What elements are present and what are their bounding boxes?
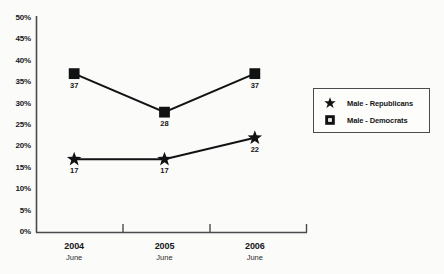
- y-axis-tick-label: 40%: [0, 56, 31, 65]
- y-axis-tick-label: 50%: [0, 13, 31, 22]
- y-axis-tick-label: 30%: [0, 99, 31, 108]
- y-axis-tick-label: 5%: [0, 206, 31, 215]
- data-point-square-marker: [159, 107, 170, 118]
- data-point-value-label: 37: [54, 81, 94, 90]
- data-point-star-marker: [157, 152, 171, 166]
- data-point-square-marker: [69, 68, 80, 79]
- chart-legend: Male - Republicans Male - Democrats: [313, 88, 430, 133]
- x-axis-year: 2005: [125, 241, 205, 251]
- data-point-value-label: 37: [235, 81, 275, 90]
- x-axis-month: June: [34, 253, 114, 262]
- data-point-value-label: 17: [145, 166, 185, 175]
- x-axis-month: June: [125, 253, 205, 262]
- data-point-value-label: 22: [235, 145, 275, 154]
- legend-item-republicans: Male - Republicans: [324, 96, 413, 110]
- data-point-value-label: 17: [54, 166, 94, 175]
- y-axis-tick-label: 45%: [0, 34, 31, 43]
- y-axis-tick-label: 15%: [0, 163, 31, 172]
- line-chart: 50%45%40%35%30%25%20%15%10%5%0% 2004June…: [0, 0, 444, 274]
- y-axis-tick-label: 25%: [0, 120, 31, 129]
- y-axis-tick-label: 20%: [0, 141, 31, 150]
- data-point-value-label: 28: [145, 119, 185, 128]
- legend-label: Male - Democrats: [347, 116, 408, 125]
- legend-label: Male - Republicans: [347, 99, 413, 108]
- x-axis-year: 2004: [34, 241, 114, 251]
- y-axis-tick-label: 35%: [0, 77, 31, 86]
- legend-item-democrats: Male - Democrats: [324, 113, 408, 127]
- y-axis-tick-label: 10%: [0, 184, 31, 193]
- x-axis-month: June: [215, 253, 295, 262]
- data-point-square-marker: [249, 68, 260, 79]
- series-line-democrats: [74, 74, 255, 113]
- y-axis-tick-label: 0%: [0, 227, 31, 236]
- chart-plot-area: [0, 0, 444, 274]
- series-markers-democrats: [69, 68, 260, 117]
- square-icon: [324, 114, 336, 126]
- data-point-star-marker: [67, 152, 81, 166]
- data-point-star-marker: [248, 130, 262, 144]
- x-axis-category-label: 2005June: [125, 241, 205, 262]
- x-axis-category-label: 2004June: [34, 241, 114, 262]
- x-axis-year: 2006: [215, 241, 295, 251]
- star-icon: [324, 97, 336, 109]
- x-axis-category-label: 2006June: [215, 241, 295, 262]
